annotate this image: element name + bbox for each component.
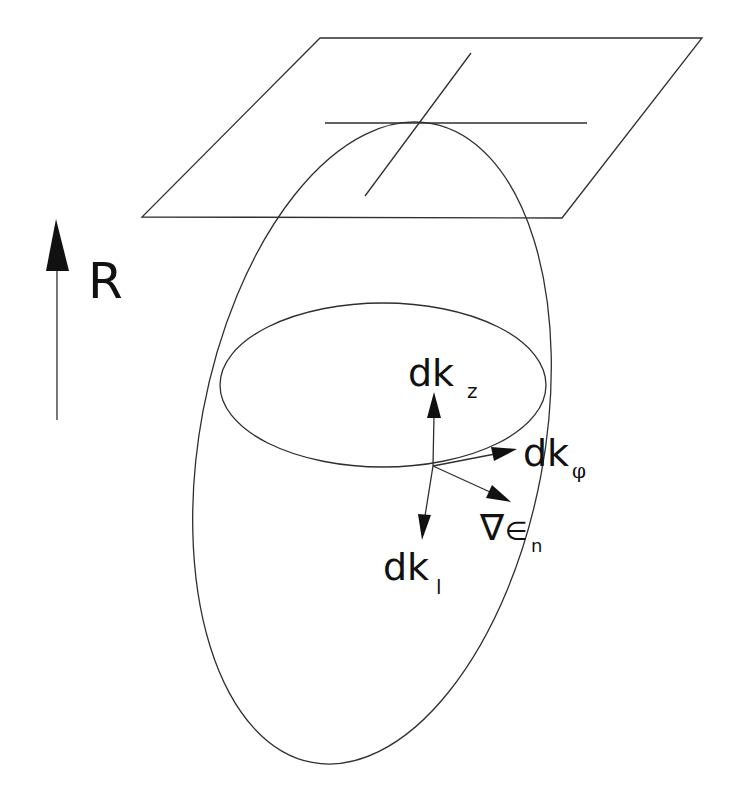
arrow-right-icon: [491, 447, 517, 461]
dk-phi-vector: [433, 447, 517, 466]
fermi-surface-diagram: R dk z dk φ ∇ ∈ n dk l: [0, 0, 730, 800]
dk-z-label-sub: z: [467, 379, 478, 403]
arrow-up-icon: [427, 392, 441, 418]
plane-diagonal-line: [365, 53, 471, 196]
dk-l-label-sub: l: [436, 575, 442, 599]
grad-eps-vector: [433, 466, 511, 502]
dk-phi-label-main: dk: [523, 431, 569, 475]
dk-phi-label-sub: φ: [572, 459, 586, 483]
dk-z-label-main: dk: [408, 351, 454, 395]
grad-eps-shaft: [433, 466, 490, 492]
dk-l-shaft: [425, 466, 433, 516]
dk-z-shaft: [433, 415, 434, 466]
epsilon-sub-label: n: [531, 535, 542, 556]
arrow-down-icon: [418, 514, 431, 540]
cross-section-ellipse: [220, 303, 546, 467]
r-label: R: [88, 252, 123, 310]
dk-z-vector: [427, 392, 441, 466]
dk-l-label-main: dk: [383, 545, 429, 589]
r-direction-arrow: [46, 219, 69, 420]
tangent-plane: [142, 38, 702, 218]
dk-l-vector: [418, 466, 433, 540]
arrow-down-right-icon: [486, 485, 511, 502]
nabla-label: ∇: [479, 507, 505, 548]
arrow-up-icon: [46, 219, 69, 271]
epsilon-label: ∈: [505, 516, 528, 546]
